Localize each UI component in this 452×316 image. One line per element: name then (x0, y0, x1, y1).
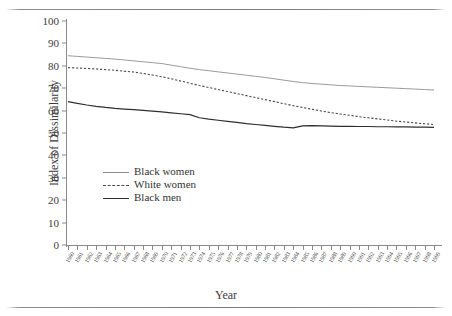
x-axis-tick-mark (256, 245, 257, 250)
x-axis-tick-label: 1961 (74, 251, 85, 264)
x-axis-tick-label: 1966 (121, 251, 132, 264)
x-axis-tick-label: 1997 (412, 251, 423, 264)
x-axis-tick-mark (359, 245, 360, 250)
x-axis-tick-label: 1986 (308, 251, 319, 264)
x-axis-tick-mark (218, 245, 219, 250)
x-axis-tick-mark (396, 245, 397, 250)
x-axis-tick-mark (181, 245, 182, 250)
y-axis-tick: 50 (48, 128, 66, 139)
y-axis-tick-label: 90 (48, 38, 59, 49)
y-axis-tick: 20 (48, 195, 66, 206)
x-axis-tick-label: 1968 (139, 251, 150, 264)
x-axis-tick-mark (293, 245, 294, 250)
y-axis-tick-label: 80 (48, 60, 59, 71)
x-axis-tick-mark (237, 245, 238, 250)
x-axis-tick-mark (434, 245, 435, 250)
x-axis-tick-label: 1975 (205, 251, 216, 264)
x-axis-tick-mark (425, 245, 426, 250)
bottom-divider-rule (6, 307, 446, 308)
x-axis-tick-mark (96, 245, 97, 250)
x-axis-tick-label: 1990 (346, 251, 357, 264)
top-divider-rule (6, 9, 446, 10)
y-axis-tick-label: 0 (54, 240, 60, 251)
x-axis-tick-label: 1988 (327, 251, 338, 264)
chart-legend: Black womenWhite womenBlack men (103, 166, 196, 203)
x-axis-tick-mark (415, 245, 416, 250)
x-axis-tick-mark (265, 245, 266, 250)
x-axis-tick-mark (406, 245, 407, 250)
y-axis-title-container: Index of Dissimilarity (6, 20, 26, 246)
x-axis-tick-label: 1973 (186, 251, 197, 264)
x-axis-tick-label: 1967 (130, 251, 141, 264)
x-axis-tick-label: 1962 (83, 251, 94, 264)
y-axis-tick: 80 (48, 60, 66, 71)
y-axis-tick: 0 (54, 240, 67, 251)
x-axis-tick-label: 1987 (318, 251, 329, 264)
x-axis-tick-label: 1999 (430, 251, 441, 264)
x-axis-tick-mark (77, 245, 78, 250)
x-axis-tick-mark (124, 245, 125, 250)
x-axis-tick-label: 1963 (93, 251, 104, 264)
x-axis-tick-mark (321, 245, 322, 250)
x-axis-tick-mark (350, 245, 351, 250)
legend-item-label: Black women (134, 166, 195, 177)
series-line (68, 56, 434, 90)
y-axis-tick: 60 (48, 105, 66, 116)
x-axis-tick-mark (171, 245, 172, 250)
y-axis-tick: 30 (48, 172, 66, 183)
x-axis-tick-mark (246, 245, 247, 250)
y-axis-tick: 100 (43, 16, 67, 27)
x-axis-tick-mark (368, 245, 369, 250)
x-axis-tick-label: 1980 (252, 251, 263, 264)
x-axis-tick-mark (68, 245, 69, 250)
x-axis-tick-mark (190, 245, 191, 250)
y-axis-tick-label: 40 (48, 150, 59, 161)
series-lines (66, 21, 440, 245)
y-axis-tick-label: 20 (48, 195, 59, 206)
x-axis-title: Year (0, 288, 452, 303)
x-axis-tick-mark (134, 245, 135, 250)
x-axis-tick-label: 1974 (196, 251, 207, 264)
x-axis-tick-label: 1976 (215, 251, 226, 264)
y-axis-tick: 40 (48, 150, 66, 161)
legend-item: Black women (103, 166, 196, 177)
x-axis-tick-label: 1969 (149, 251, 160, 264)
x-axis-tick-mark (106, 245, 107, 250)
legend-item: White women (103, 179, 196, 190)
y-axis-tick: 10 (48, 217, 66, 228)
x-axis-tick-mark (152, 245, 153, 250)
x-axis-tick-label: 1994 (383, 251, 394, 264)
y-axis-tick: 90 (48, 38, 66, 49)
legend-item: Black men (103, 192, 196, 203)
x-axis-tick-label: 1989 (337, 251, 348, 264)
x-axis-tick-mark (312, 245, 313, 250)
y-axis-tick-label: 100 (43, 16, 60, 27)
series-line (68, 102, 434, 128)
x-axis-tick-mark (378, 245, 379, 250)
x-axis-tick-mark (303, 245, 304, 250)
plot-area: 0102030405060708090100 (66, 21, 440, 245)
x-axis-tick-label: 1985 (299, 251, 310, 264)
y-axis-tick-label: 50 (48, 128, 59, 139)
x-axis-tick-mark (209, 245, 210, 250)
y-axis-tick-label: 10 (48, 217, 59, 228)
legend-swatch-icon (103, 169, 129, 175)
x-axis-tick-label: 1971 (168, 251, 179, 264)
y-axis-tick-label: 70 (48, 83, 59, 94)
chart-figure: Index of Dissimilarity 01020304050607080… (0, 0, 452, 316)
x-axis-tick-mark (87, 245, 88, 250)
x-axis-tick-label: 1996 (402, 251, 413, 264)
x-axis-tick-label: 1998 (421, 251, 432, 264)
x-axis-tick-mark (115, 245, 116, 250)
x-axis-tick-label: 1972 (177, 251, 188, 264)
x-axis-tick-mark (162, 245, 163, 250)
x-axis-tick-label: 1960 (64, 251, 75, 264)
x-axis-tick-mark (284, 245, 285, 250)
y-axis-tick-label: 30 (48, 172, 59, 183)
legend-item-label: White women (134, 179, 196, 190)
x-axis-tick-labels: 1960196119621963196419651966196719681969… (66, 251, 442, 285)
x-axis-tick-mark (331, 245, 332, 250)
legend-item-label: Black men (134, 192, 181, 203)
x-axis-tick-label: 1981 (261, 251, 272, 264)
x-axis-tick-mark (387, 245, 388, 250)
